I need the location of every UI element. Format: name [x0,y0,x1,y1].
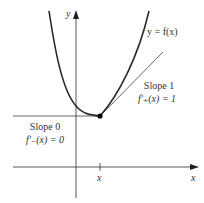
one-sided-derivative-diagram: y y = f(x) Slope 1 f'₊(x) = 1 Slope 0 f'… [0,0,204,203]
left-slope-label: Slope 0 [22,121,68,132]
curve-left-branch [49,11,100,116]
y-axis-arrow-icon [73,10,79,19]
right-slope-label: Slope 1 [136,80,182,91]
curve-label: y = f(x) [147,26,178,37]
left-derivative-label: f'₋(x) = 0 [18,134,72,145]
right-derivative-label: f'₊(x) = 1 [131,93,183,104]
y-axis-label: y [66,8,70,19]
x-axis-label: x [191,172,195,183]
corner-point [97,113,102,118]
x-tick-label: x [97,172,101,183]
x-axis-arrow-icon [190,164,199,170]
